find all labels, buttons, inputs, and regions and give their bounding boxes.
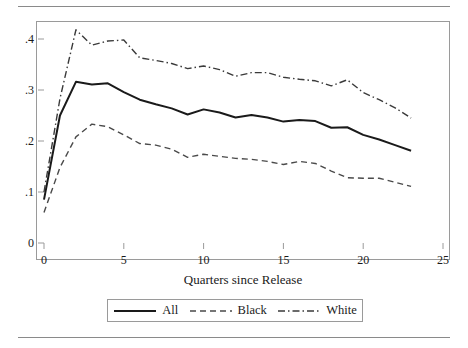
y-tick-label: 0 xyxy=(10,237,34,249)
y-axis-tick-marks xyxy=(38,39,44,243)
x-tick-label: 15 xyxy=(268,254,298,266)
series-line-white xyxy=(44,30,411,192)
x-tick-label: 10 xyxy=(189,254,219,266)
figure-container: 0.1.2.3.4 0510152025 Quarters since Rele… xyxy=(0,0,468,348)
legend-swatch-dashdot-icon xyxy=(277,306,321,316)
series-line-all xyxy=(44,82,411,200)
x-tick-label: 5 xyxy=(109,254,139,266)
data-series-group xyxy=(44,30,411,213)
x-tick-label: 25 xyxy=(428,254,458,266)
x-axis-tick-marks xyxy=(44,243,443,249)
legend-item-white: White xyxy=(277,304,357,317)
y-tick-label: .3 xyxy=(10,84,34,96)
series-line-black xyxy=(44,124,411,212)
y-tick-label: .1 xyxy=(10,186,34,198)
legend-swatch-solid-icon xyxy=(113,306,157,316)
legend-item-black: Black xyxy=(189,304,267,317)
y-tick-label: .4 xyxy=(10,33,34,45)
bottom-horizontal-rule xyxy=(18,337,450,338)
chart-legend: All Black White xyxy=(107,299,363,322)
y-tick-label: .2 xyxy=(10,135,34,147)
legend-swatch-dashed-icon xyxy=(189,306,233,316)
x-axis-title: Quarters since Release xyxy=(36,272,450,288)
legend-label-black: Black xyxy=(238,304,267,317)
legend-label-all: All xyxy=(162,304,178,317)
chart-canvas xyxy=(0,0,468,348)
legend-label-white: White xyxy=(326,304,357,317)
legend-item-all: All xyxy=(113,304,178,317)
x-tick-label: 0 xyxy=(29,254,59,266)
x-tick-label: 20 xyxy=(348,254,378,266)
